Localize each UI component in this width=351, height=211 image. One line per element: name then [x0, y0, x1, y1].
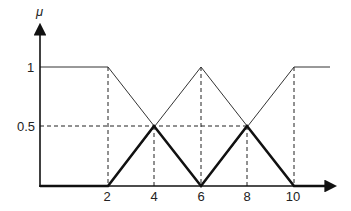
- x-tick-6: 6: [197, 189, 204, 204]
- y-tick-0.5: 0.5: [17, 119, 35, 134]
- bold-output-curve: [40, 126, 330, 186]
- x-tick-2: 2: [103, 189, 110, 204]
- y-tick-1: 1: [27, 60, 34, 75]
- x-tick-4: 4: [150, 189, 157, 204]
- fuzzy-membership-diagram: μ 1 0.5 2 4 6 8 10: [0, 0, 351, 211]
- guide-lines: [40, 67, 294, 186]
- x-tick-8: 8: [243, 189, 250, 204]
- x-tick-10: 10: [286, 189, 300, 204]
- y-axis-label: μ: [35, 4, 43, 19]
